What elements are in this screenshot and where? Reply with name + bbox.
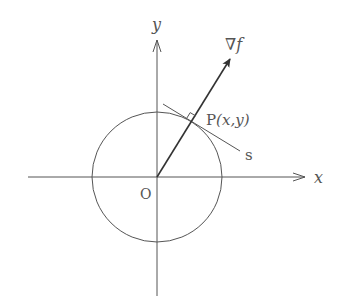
point-coords: (x,y) xyxy=(216,111,250,129)
nabla-glyph: ∇ xyxy=(225,35,236,54)
y-axis-label: y xyxy=(151,15,162,34)
origin-label: O xyxy=(140,186,151,202)
x-axis-label: x xyxy=(314,168,323,187)
tangent-label: s xyxy=(245,146,253,164)
point-prefix: P xyxy=(206,111,216,129)
gradient-label: ∇f xyxy=(225,35,245,54)
diagram-canvas: y x O ∇f P(x,y) s xyxy=(0,0,346,304)
point-label: P(x,y) xyxy=(206,111,250,129)
f-glyph: f xyxy=(235,35,245,54)
